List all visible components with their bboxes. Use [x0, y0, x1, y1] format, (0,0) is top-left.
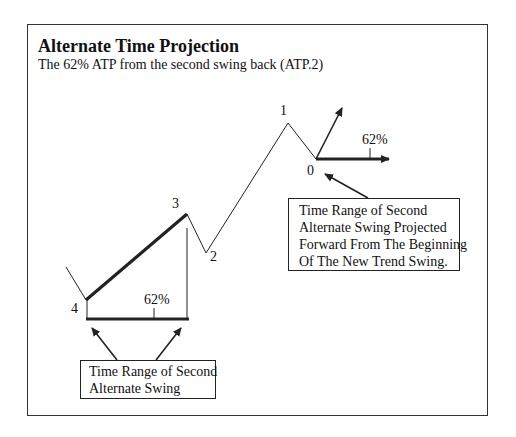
- price-path: [66, 123, 316, 300]
- left-callout-arrow-a: [92, 328, 117, 360]
- point-label-0: 0: [307, 164, 314, 178]
- callout-box-left: Time Range of Second Alternate Swing: [80, 360, 216, 399]
- up-arrow: [316, 108, 342, 159]
- callout-right-line-4: Of The New Trend Swing.: [299, 253, 459, 270]
- point-label-1: 1: [280, 104, 287, 118]
- point-label-4: 4: [71, 302, 78, 316]
- pct-label-right: 62%: [362, 133, 388, 147]
- callout-left-line-1: Time Range of Second: [89, 363, 215, 380]
- left-callout-arrow-b: [156, 328, 181, 360]
- callout-right-line-1: Time Range of Second: [299, 202, 459, 219]
- callout-left-line-2: Alternate Swing: [89, 380, 215, 397]
- swing-4-3-line: [86, 214, 187, 300]
- left-time-range: [86, 228, 189, 319]
- right-callout-arrow: [325, 174, 368, 198]
- callout-right-line-2: Alternate Swing Projected: [299, 219, 459, 236]
- pct-label-left: 62%: [144, 293, 170, 307]
- point-label-3: 3: [172, 197, 179, 211]
- point-label-2: 2: [210, 250, 217, 264]
- callout-right-line-3: Forward From The Beginning: [299, 236, 459, 253]
- callout-box-right: Time Range of Second Alternate Swing Pro…: [288, 198, 460, 271]
